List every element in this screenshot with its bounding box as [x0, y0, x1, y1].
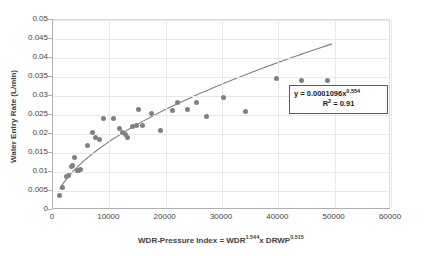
x-axis-tick-label: 50000 [323, 213, 345, 221]
x-axis-tick-labels: 0100002000030000400005000060000 [0, 213, 424, 225]
data-point [78, 167, 83, 172]
x-axis-tick-label: 20000 [154, 213, 176, 221]
gridline-vertical [166, 20, 167, 208]
data-point [70, 163, 75, 168]
data-point [125, 135, 130, 140]
gridline-vertical [335, 20, 336, 208]
x-axis-tick-label: 10000 [97, 213, 119, 221]
plot-area [52, 19, 390, 209]
gridline-horizontal [53, 153, 389, 154]
data-point [90, 130, 95, 135]
x-axis-tick-label: 30000 [210, 213, 232, 221]
x-axis-tick-label: 40000 [266, 213, 288, 221]
gridline-horizontal [53, 39, 389, 40]
gridline-vertical [391, 20, 392, 208]
y-axis-tick-mark [48, 38, 52, 39]
data-point [221, 95, 226, 100]
data-point [149, 111, 154, 116]
data-point [194, 100, 199, 105]
data-point [66, 173, 71, 178]
y-axis-tick-mark [48, 95, 52, 96]
r-squared-line: R2 = 0.91 [294, 99, 383, 109]
x-axis-tick-label: 60000 [379, 213, 401, 221]
y-axis-tick-mark [48, 152, 52, 153]
data-point [97, 137, 102, 142]
y-axis-tick-label: 0.005 [4, 186, 48, 194]
y-axis-line [52, 19, 53, 209]
scatter-chart: 00.0050.010.0150.020.0250.030.0350.040.0… [0, 0, 424, 256]
y-axis-title: Water Entry Rate (L/min) [9, 52, 18, 182]
y-axis-tick-mark [48, 190, 52, 191]
y-axis-tick-mark [48, 133, 52, 134]
data-point [136, 107, 141, 112]
gridline-horizontal [53, 172, 389, 173]
gridline-horizontal [53, 134, 389, 135]
gridline-horizontal [53, 58, 389, 59]
data-point [175, 100, 180, 105]
y-axis-tick-mark [48, 76, 52, 77]
x-axis-tick-label: 0 [50, 213, 54, 221]
gridline-vertical [222, 20, 223, 208]
y-axis-tick-mark [48, 57, 52, 58]
y-axis-tick-mark [48, 19, 52, 20]
x-axis-line [52, 208, 390, 209]
data-point [185, 107, 190, 112]
gridline-vertical [278, 20, 279, 208]
y-axis-tick-mark [48, 114, 52, 115]
data-point [101, 116, 106, 121]
trendline-equation-box: y = 0.0001096x0.554 R2 = 0.91 [289, 85, 388, 114]
y-axis-tick-label: 0.05 [4, 15, 48, 23]
y-axis-tick-label: 0 [4, 205, 48, 213]
equation-line: y = 0.0001096x0.554 [294, 89, 383, 99]
y-axis-tick-mark [48, 171, 52, 172]
gridline-horizontal [53, 77, 389, 78]
gridline-horizontal [53, 191, 389, 192]
y-axis-tick-label: 0.045 [4, 34, 48, 42]
y-axis-tick-mark [48, 209, 52, 210]
gridline-vertical [109, 20, 110, 208]
x-axis-title: WDR-Pressure Index = WDR1.544x DRWP0.515 [52, 236, 390, 245]
data-point [243, 109, 248, 114]
gridline-horizontal [53, 20, 389, 21]
